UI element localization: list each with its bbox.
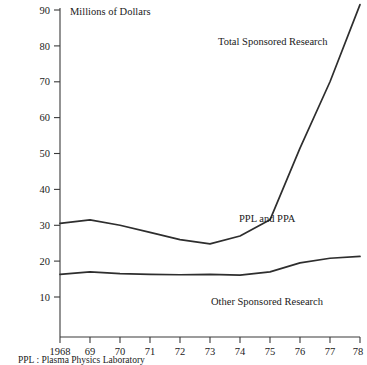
y-tick-label: 90 (40, 5, 51, 16)
y-tick-label: 40 (40, 184, 51, 195)
footnote-ppl-definition: PPL : Plasma Physics Laboratory (18, 355, 145, 365)
x-tick-label: 76 (295, 346, 306, 357)
annotation-total-sponsored-research: Total Sponsored Research (218, 36, 328, 47)
x-tick-label: 74 (235, 346, 246, 357)
y-axis-title: Millions of Dollars (70, 6, 151, 17)
line-chart-plot: 10 20 30 40 50 60 70 80 90 1968 (0, 0, 367, 365)
annotation-ppl-and-ppa: PPL and PPA (239, 213, 296, 224)
x-tick-label: 75 (265, 346, 276, 357)
x-tick-label: 73 (205, 346, 216, 357)
y-tick-label: 10 (40, 292, 51, 303)
x-tick-label: 71 (145, 346, 156, 357)
y-tick-label: 70 (40, 76, 51, 87)
chart-container: 10 20 30 40 50 60 70 80 90 1968 (0, 0, 367, 365)
y-axis-tick-labels: 10 20 30 40 50 60 70 80 90 (40, 5, 51, 303)
chart-background (0, 0, 367, 365)
annotation-other-sponsored-research: Other Sponsored Research (211, 296, 324, 307)
y-tick-label: 80 (40, 41, 51, 52)
x-tick-label: 72 (175, 346, 186, 357)
y-tick-label: 60 (40, 112, 51, 123)
y-tick-label: 20 (40, 256, 51, 267)
y-tick-label: 30 (40, 220, 51, 231)
y-tick-label: 50 (40, 148, 51, 159)
x-tick-label: 77 (325, 346, 336, 357)
x-tick-label: 78 (353, 346, 364, 357)
